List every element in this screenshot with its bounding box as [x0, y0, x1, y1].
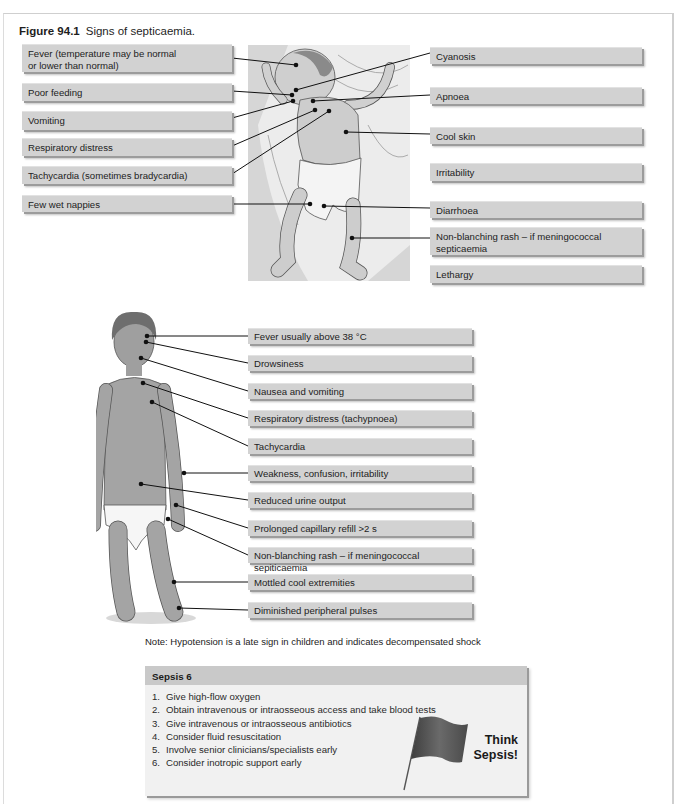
step-number: 2.: [152, 703, 166, 716]
child-label-capillary-refill: Prolonged capillary refill >2 s: [248, 520, 472, 536]
label-line: Non-blanching rash – if meningococcal: [436, 231, 636, 243]
infant-label-cool-skin: Cool skin: [430, 127, 642, 144]
label-line: septicaemia: [436, 243, 636, 255]
step-number: 3.: [152, 717, 166, 730]
infant-label-respiratory-distress: Respiratory distress: [22, 138, 232, 156]
red-flag-icon: [400, 712, 472, 792]
infant-label-lethargy: Lethargy: [430, 265, 642, 283]
figure-title: Figure 94.1Signs of septicaemia.: [19, 25, 195, 37]
step-number: 5.: [152, 743, 166, 756]
step-text: Involve senior clinicians/specialists ea…: [166, 744, 337, 755]
infant-label-poor-feeding: Poor feeding: [22, 83, 232, 101]
callout-line: Think: [468, 733, 518, 748]
label-line: or lower than normal): [28, 60, 226, 72]
child-label-diminished-pulses: Diminished peripheral pulses: [248, 602, 472, 618]
child-label-mottled-extremities: Mottled cool extremities: [248, 574, 472, 590]
step-text: Consider fluid resuscitation: [166, 731, 281, 742]
callout-line: Sepsis!: [468, 748, 518, 763]
child-label-nausea-vomiting: Nausea and vomiting: [248, 383, 472, 399]
step-text: Consider inotropic support early: [166, 757, 301, 768]
child-illustration: [96, 300, 216, 625]
step-number: 6.: [152, 756, 166, 769]
label-line: Fever (temperature may be normal: [28, 48, 226, 60]
step-number: 1.: [152, 690, 166, 703]
child-label-fever: Fever usually above 38 °C: [248, 328, 472, 344]
hypotension-note: Note: Hypotension is a late sign in chil…: [145, 636, 481, 647]
figure-number: Figure 94.1: [19, 25, 80, 37]
step-text: Give intravenous or intraosseous antibio…: [166, 718, 352, 729]
infant-label-fever: Fever (temperature may be normal or lowe…: [22, 44, 232, 72]
infant-label-few-wet-nappies: Few wet nappies: [22, 195, 232, 212]
think-sepsis-callout: Think Sepsis!: [468, 733, 518, 763]
sepsis-step: 1.Give high-flow oxygen: [152, 690, 527, 703]
child-label-weakness: Weakness, confusion, irritability: [248, 465, 472, 481]
infant-label-apnoea: Apnoea: [430, 87, 642, 104]
step-text: Give high-flow oxygen: [166, 691, 260, 702]
infant-label-diarrhoea: Diarrhoea: [430, 201, 642, 218]
child-label-reduced-urine: Reduced urine output: [248, 492, 472, 508]
child-label-non-blanching-rash: Non-blanching rash – if meningococcal se…: [248, 547, 472, 563]
sepsis-6-title: Sepsis 6: [145, 666, 527, 685]
child-label-respiratory-distress: Respiratory distress (tachypnoea): [248, 410, 472, 426]
infant-illustration: [248, 45, 410, 281]
infant-label-irritability: Irritability: [430, 163, 642, 181]
step-text: Obtain intravenous or intraosseous acces…: [166, 704, 436, 715]
child-label-tachycardia: Tachycardia: [248, 438, 472, 454]
infant-label-vomiting: Vomiting: [22, 111, 232, 130]
infant-label-tachycardia: Tachycardia (sometimes bradycardia): [22, 166, 232, 184]
step-number: 4.: [152, 730, 166, 743]
infant-label-non-blanching-rash: Non-blanching rash – if meningococcal se…: [430, 227, 642, 255]
infant-label-cyanosis: Cyanosis: [430, 47, 642, 64]
child-label-drowsiness: Drowsiness: [248, 355, 472, 371]
figure-caption: Signs of septicaemia.: [86, 25, 195, 37]
